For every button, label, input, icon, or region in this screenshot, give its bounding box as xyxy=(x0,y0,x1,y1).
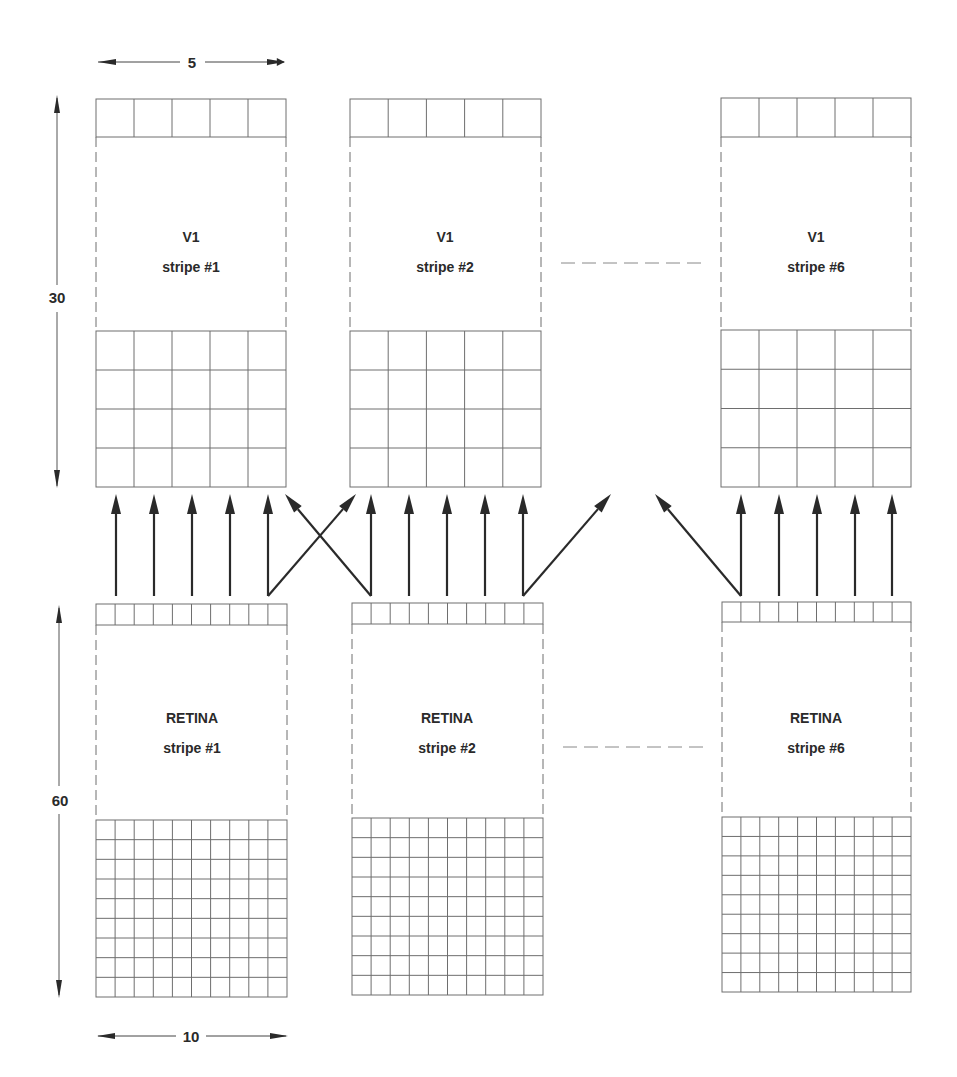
arrowhead-icon xyxy=(812,494,822,514)
arrowhead-icon xyxy=(263,494,273,514)
retina-stripe-grid-1 xyxy=(96,604,287,997)
arrowhead-icon xyxy=(149,494,159,514)
projection-arrow xyxy=(887,494,897,596)
retina-stripe-2-title: RETINA xyxy=(421,710,473,726)
retina-width-dimension: 10 xyxy=(97,1028,288,1045)
arrow-up-icon xyxy=(56,605,62,623)
retina-stripe-6: RETINA stripe #6 xyxy=(787,710,845,756)
arrow-left-icon xyxy=(98,59,116,65)
projection-arrow xyxy=(187,494,197,596)
arrow-down-icon xyxy=(56,980,62,998)
arrowhead-icon xyxy=(518,494,528,514)
retina-stripe-grid-2 xyxy=(352,603,543,995)
arrowhead-icon xyxy=(887,494,897,514)
v1-stripe-6: V1 stripe #6 xyxy=(787,229,845,275)
retina-stripes xyxy=(96,602,911,997)
projection-arrow xyxy=(111,494,121,596)
arrowhead-icon xyxy=(187,494,197,514)
v1-height-label: 30 xyxy=(49,289,66,306)
top-cell-row xyxy=(721,98,911,137)
arrowhead-icon xyxy=(480,494,490,514)
v1-stripe-1: V1 stripe #1 xyxy=(162,229,220,275)
projection-arrow xyxy=(850,494,860,596)
arrowhead-icon xyxy=(225,494,235,514)
v1-stripe-grid-1 xyxy=(96,99,286,487)
top-cell-row xyxy=(96,99,286,137)
v1-stripe-2-subtitle: stripe #2 xyxy=(416,259,474,275)
projection-arrow xyxy=(655,494,741,596)
arrow-left-icon xyxy=(97,1033,115,1039)
retina-v1-stripe-diagram: 5 30 60 10 V1 stripe #1 V1 stripe #2 V1 xyxy=(0,0,957,1077)
arrow-down-icon xyxy=(54,470,60,488)
retina-height-label: 60 xyxy=(52,792,69,809)
retina-stripe-1: RETINA stripe #1 xyxy=(163,710,221,756)
projection-arrow xyxy=(523,494,611,596)
projection-arrow xyxy=(263,494,273,596)
projection-arrow xyxy=(812,494,822,596)
projection-arrow xyxy=(149,494,159,596)
projection-arrow xyxy=(518,494,528,596)
retina-stripe-2-subtitle: stripe #2 xyxy=(418,740,476,756)
retina-stripe-1-title: RETINA xyxy=(166,710,218,726)
retina-stripe-2: RETINA stripe #2 xyxy=(418,710,476,756)
v1-height-dimension: 30 xyxy=(49,95,66,488)
retina-stripe-grid-3 xyxy=(722,602,911,992)
arrowhead-icon xyxy=(366,494,376,514)
projection-arrow xyxy=(480,494,490,596)
projection-arrows xyxy=(111,494,897,596)
arrow-up-icon xyxy=(54,95,60,113)
v1-stripe-1-subtitle: stripe #1 xyxy=(162,259,220,275)
projection-arrow xyxy=(225,494,235,596)
v1-stripe-2: V1 stripe #2 xyxy=(416,229,474,275)
v1-stripe-grid-3 xyxy=(721,98,911,487)
projection-arrow xyxy=(285,494,371,596)
arrowhead-icon xyxy=(111,494,121,514)
projection-arrow xyxy=(736,494,746,596)
retina-stripe-6-subtitle: stripe #6 xyxy=(787,740,845,756)
arrow-right-icon xyxy=(270,1033,288,1039)
arrowhead-icon xyxy=(442,494,452,514)
arrow-right-icon xyxy=(267,59,285,65)
projection-arrow xyxy=(442,494,452,596)
v1-stripe-grid-2 xyxy=(350,99,541,487)
v1-stripe-6-title: V1 xyxy=(807,229,824,245)
v1-stripe-1-title: V1 xyxy=(182,229,199,245)
arrowhead-icon xyxy=(850,494,860,514)
v1-width-dimension: 5 xyxy=(98,54,285,71)
arrowhead-icon xyxy=(404,494,414,514)
projection-arrow xyxy=(404,494,414,596)
retina-width-label: 10 xyxy=(183,1028,200,1045)
arrowhead-icon xyxy=(774,494,784,514)
v1-width-label: 5 xyxy=(188,54,196,71)
v1-stripes xyxy=(96,98,911,487)
arrowhead-icon xyxy=(736,494,746,514)
v1-stripe-6-subtitle: stripe #6 xyxy=(787,259,845,275)
projection-arrow xyxy=(268,494,356,596)
retina-stripe-6-title: RETINA xyxy=(790,710,842,726)
projection-arrow xyxy=(774,494,784,596)
projection-arrow xyxy=(366,494,376,596)
retina-stripe-1-subtitle: stripe #1 xyxy=(163,740,221,756)
top-cell-row xyxy=(350,99,541,137)
ellipsis-lines xyxy=(561,263,703,747)
v1-stripe-2-title: V1 xyxy=(436,229,453,245)
retina-height-dimension: 60 xyxy=(52,605,69,998)
